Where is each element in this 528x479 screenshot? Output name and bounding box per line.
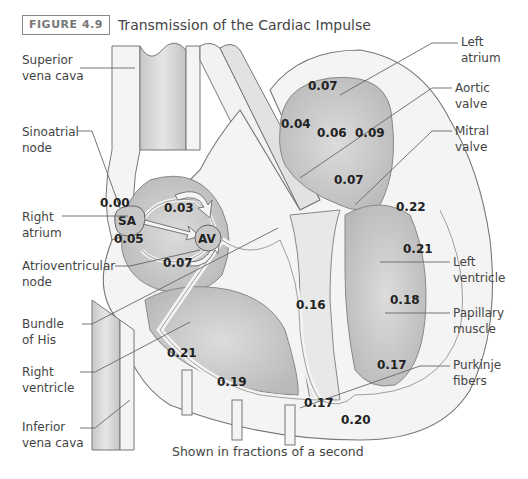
- label-superior-vena-cava-2: vena cava: [22, 69, 84, 83]
- timing-la-right: 0.09: [355, 126, 385, 140]
- svg-text:muscle: muscle: [453, 322, 496, 336]
- label-purkinje-fibers-1: Purkinje: [453, 358, 501, 372]
- svg-text:Right: Right: [22, 365, 54, 379]
- svg-text:Left: Left: [461, 35, 484, 49]
- label-papillary-muscle-2: muscle: [453, 322, 496, 336]
- timing-lv-low: 0.17: [377, 358, 407, 372]
- label-sinoatrial-1: Sinoatrial: [22, 125, 79, 139]
- heart-diagram: SA AV Superior vena cava Sinoatrial node…: [0, 0, 528, 479]
- svg-text:vena cava: vena cava: [22, 436, 84, 450]
- timing-rv-low: 0.19: [217, 375, 247, 389]
- timing-ra-low: 0.05: [114, 232, 144, 246]
- label-bundle-of-his-2: of His: [22, 333, 56, 347]
- label-left-ventricle-1: Left: [453, 255, 476, 269]
- svg-text:Sinoatrial: Sinoatrial: [22, 125, 79, 139]
- label-inferior-vena-cava-1: Inferior: [22, 420, 65, 434]
- label-papillary-muscle-1: Papillary: [453, 306, 504, 320]
- svg-text:node: node: [22, 275, 52, 289]
- label-inferior-vena-cava-2: vena cava: [22, 436, 84, 450]
- svg-text:Mitral: Mitral: [455, 124, 489, 138]
- timing-lv-upper: 0.21: [403, 242, 433, 256]
- timing-lv-mid: 0.18: [390, 293, 420, 307]
- label-sinoatrial-2: node: [22, 141, 52, 155]
- svg-text:fibers: fibers: [453, 374, 487, 388]
- figure-caption: Shown in fractions of a second: [172, 444, 364, 459]
- label-right-ventricle-2: ventricle: [22, 381, 74, 395]
- svg-text:Papillary: Papillary: [453, 306, 504, 320]
- label-bundle-of-his-1: Bundle: [22, 317, 64, 331]
- av-node: AV: [195, 225, 221, 251]
- label-left-ventricle-2: ventricle: [453, 271, 505, 285]
- label-left-atrium-1: Left: [461, 35, 484, 49]
- label-right-atrium-1: Right: [22, 210, 54, 224]
- svg-text:ventricle: ventricle: [22, 381, 74, 395]
- label-aortic-valve-2: valve: [455, 97, 487, 111]
- svg-text:Right: Right: [22, 210, 54, 224]
- svg-text:valve: valve: [455, 140, 487, 154]
- svg-text:ventricle: ventricle: [453, 271, 505, 285]
- av-node-label: AV: [198, 232, 216, 246]
- timing-la-mid: 0.06: [317, 126, 347, 140]
- timing-av-out: 0.07: [163, 256, 193, 270]
- timing-apex-outer: 0.20: [341, 413, 371, 427]
- svg-text:node: node: [22, 141, 52, 155]
- timing-sa: 0.00: [100, 196, 130, 210]
- timing-la-left: 0.04: [281, 117, 311, 131]
- timing-septum: 0.16: [296, 298, 326, 312]
- svg-text:atrium: atrium: [22, 226, 62, 240]
- svg-text:valve: valve: [455, 97, 487, 111]
- label-av-node-2: node: [22, 275, 52, 289]
- label-right-ventricle-1: Right: [22, 365, 54, 379]
- timing-la-bottom: 0.07: [334, 173, 364, 187]
- label-mitral-valve-1: Mitral: [455, 124, 489, 138]
- timing-rv-upper: 0.21: [167, 346, 197, 360]
- svg-text:Inferior: Inferior: [22, 420, 65, 434]
- timing-apex: 0.17: [304, 396, 334, 410]
- svg-text:Aortic: Aortic: [455, 81, 490, 95]
- timing-lv-top: 0.22: [396, 200, 426, 214]
- timing-ra-av: 0.03: [164, 201, 194, 215]
- label-aortic-valve-1: Aortic: [455, 81, 490, 95]
- label-right-atrium-2: atrium: [22, 226, 62, 240]
- label-mitral-valve-2: valve: [455, 140, 487, 154]
- timing-la-top: 0.07: [308, 79, 338, 93]
- label-av-node-1: Atrioventricular: [22, 259, 115, 273]
- svg-text:Superior: Superior: [22, 53, 73, 67]
- label-purkinje-fibers-2: fibers: [453, 374, 487, 388]
- svg-text:vena cava: vena cava: [22, 69, 84, 83]
- label-left-atrium-2: atrium: [461, 51, 501, 65]
- svg-text:of His: of His: [22, 333, 56, 347]
- svg-text:atrium: atrium: [461, 51, 501, 65]
- svg-text:Bundle: Bundle: [22, 317, 64, 331]
- svg-text:Left: Left: [453, 255, 476, 269]
- svg-text:Atrioventricular: Atrioventricular: [22, 259, 115, 273]
- label-superior-vena-cava-1: Superior: [22, 53, 73, 67]
- svg-text:Purkinje: Purkinje: [453, 358, 501, 372]
